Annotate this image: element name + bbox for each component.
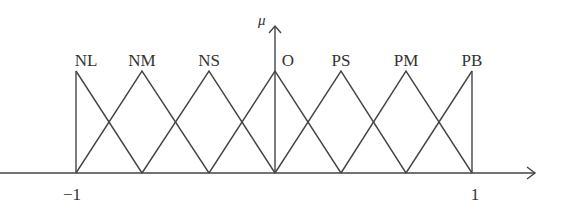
set-label-pb: PB	[462, 52, 483, 69]
set-ps	[275, 71, 406, 173]
x-tick-min: −1	[63, 186, 81, 203]
set-label-nl: NL	[75, 52, 98, 69]
set-label-pm: PM	[394, 52, 419, 69]
membership-function-diagram	[0, 0, 564, 208]
y-axis-label: μ	[258, 12, 266, 29]
set-label-o: O	[282, 52, 294, 69]
set-label-ps: PS	[332, 52, 351, 69]
set-pm	[341, 71, 472, 173]
set-label-ns: NS	[198, 52, 220, 69]
x-tick-max: 1	[471, 186, 480, 203]
set-ns	[142, 71, 275, 173]
set-nm	[76, 71, 209, 173]
set-label-nm: NM	[128, 52, 155, 69]
